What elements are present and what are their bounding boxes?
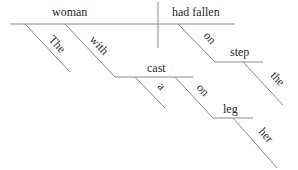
sentence-diagram: woman had fallen The with cast a on leg … xyxy=(0,0,298,170)
verb-word: had fallen xyxy=(172,5,220,19)
on-verb-preposition-word: on xyxy=(201,28,219,46)
with-preposition-word: with xyxy=(87,32,112,57)
a-modifier-line xyxy=(135,77,165,108)
her-modifier-word: her xyxy=(256,125,277,146)
cast-object-word: cast xyxy=(147,61,166,75)
leg-object-word: leg xyxy=(223,102,238,116)
a-modifier-word: a xyxy=(155,79,169,93)
on-cast-preposition-word: on xyxy=(194,80,212,98)
diagram-canvas: woman had fallen The with cast a on leg … xyxy=(0,0,298,170)
her-modifier-line xyxy=(233,118,277,168)
the-step-modifier-word: the xyxy=(268,68,288,88)
step-object-word: step xyxy=(230,45,249,59)
the-modifier-word: The xyxy=(46,32,69,55)
subject-word: woman xyxy=(52,5,87,19)
